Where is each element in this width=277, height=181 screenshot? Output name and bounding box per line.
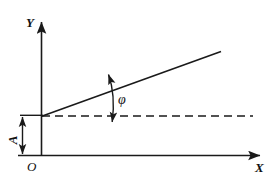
angle-label: φ xyxy=(118,92,126,107)
y-axis-label: Y xyxy=(26,15,35,30)
angle-arc xyxy=(109,75,114,123)
x-axis-label: X xyxy=(254,160,264,175)
offset-dimension-label: A xyxy=(5,135,20,145)
coordinate-diagram: Y X O A φ xyxy=(0,0,277,181)
slanted-ray xyxy=(41,52,221,117)
figure-container: Y X O A φ xyxy=(0,0,277,181)
origin-label: O xyxy=(27,159,37,174)
